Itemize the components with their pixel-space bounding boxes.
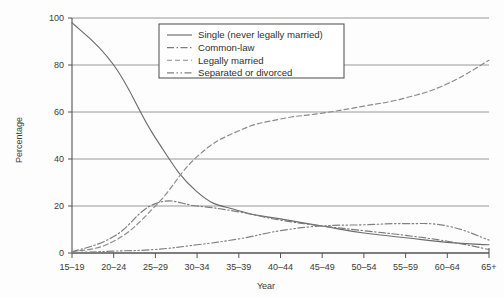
- x-tick-label-6: 45–49: [310, 262, 335, 272]
- x-tick-label-10: 65+: [481, 262, 496, 272]
- x-tick-label-4: 35–39: [226, 262, 251, 272]
- legend-label-2: Legally married: [198, 55, 264, 66]
- chart-legend: Single (never legally married)Common-law…: [159, 24, 344, 78]
- series-line-3: [72, 224, 489, 253]
- y-tick-label-60: 60: [54, 107, 64, 117]
- x-tick-label-5: 40–44: [268, 262, 293, 272]
- x-axis-title: Year: [257, 281, 275, 291]
- y-tick-label-80: 80: [54, 60, 64, 70]
- y-axis-title: Percentage: [14, 117, 24, 163]
- legend-label-0: Single (never legally married): [198, 29, 323, 40]
- y-tick-label-0: 0: [59, 248, 64, 258]
- x-tick-label-2: 25–29: [143, 262, 168, 272]
- x-tick-label-3: 30–34: [185, 262, 210, 272]
- x-tick-labels: 15–1920–2425–2930–3435–3940–4445–4950–54…: [59, 253, 496, 272]
- y-tick-label-20: 20: [54, 201, 64, 211]
- x-tick-label-9: 60–64: [435, 262, 460, 272]
- x-tick-label-7: 50–54: [351, 262, 376, 272]
- y-tick-label-100: 100: [49, 13, 64, 23]
- chart-canvas: 020406080100 15–1920–2425–2930–3435–3940…: [0, 0, 504, 297]
- legend-label-3: Separated or divorced: [198, 67, 292, 78]
- x-tick-label-0: 15–19: [59, 262, 84, 272]
- x-tick-label-1: 20–24: [101, 262, 126, 272]
- y-tick-label-40: 40: [54, 154, 64, 164]
- y-tick-labels: 020406080100: [49, 13, 72, 258]
- legend-label-1: Common-law: [198, 42, 255, 53]
- x-tick-label-8: 55–59: [393, 262, 418, 272]
- line-chart: 020406080100 15–1920–2425–2930–3435–3940…: [0, 0, 504, 297]
